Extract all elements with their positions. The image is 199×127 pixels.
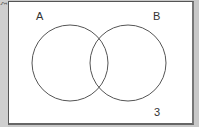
- venn-diagram: A B 3: [0, 0, 199, 127]
- set-b-label: B: [153, 10, 160, 22]
- outside-value: 3: [154, 106, 160, 118]
- set-b-circle: [90, 25, 166, 101]
- set-a-label: A: [36, 10, 44, 22]
- set-a-circle: [32, 25, 108, 101]
